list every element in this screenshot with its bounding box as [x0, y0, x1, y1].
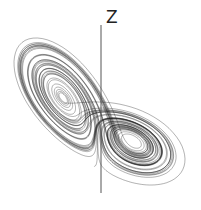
attractor-trajectory	[14, 38, 185, 185]
attractor-plot	[0, 0, 201, 210]
lorenz-attractor-figure: Z	[0, 0, 201, 210]
z-axis-label: Z	[106, 7, 118, 27]
